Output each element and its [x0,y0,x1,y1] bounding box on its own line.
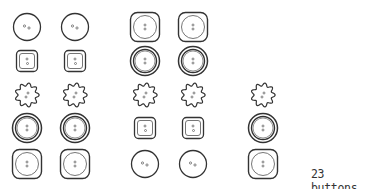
square-small-button-icon [58,44,92,78]
button-count-label: 23 buttons [311,167,377,189]
flower-button-icon [10,78,44,112]
square-small-button-icon [128,111,162,145]
round-two-hole-button-icon [10,10,44,44]
rounded-square-large-button-icon [246,147,280,181]
square-small-button-icon [10,44,44,78]
double-ring-button-icon [246,111,280,145]
flower-button-icon [176,78,210,112]
double-ring-button-icon [176,44,210,78]
double-ring-button-icon [58,111,92,145]
double-ring-button-icon [128,44,162,78]
rounded-square-large-button-icon [176,10,210,44]
double-ring-button-icon [10,111,44,145]
round-two-hole-button-icon [176,147,210,181]
rounded-square-large-button-icon [58,147,92,181]
flower-button-icon [246,78,280,112]
rounded-square-large-button-icon [10,147,44,181]
round-two-hole-button-icon [128,147,162,181]
rounded-square-large-button-icon [128,10,162,44]
round-two-hole-button-icon [58,10,92,44]
flower-button-icon [58,78,92,112]
flower-button-icon [128,78,162,112]
square-small-button-icon [176,111,210,145]
